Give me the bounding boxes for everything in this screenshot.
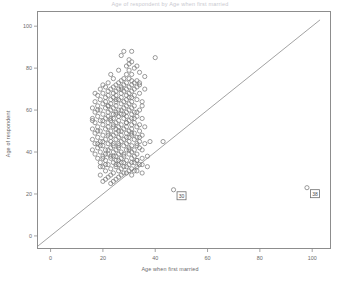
scatter-point <box>122 49 126 53</box>
scatter-point <box>93 100 97 104</box>
scatter-point <box>140 116 144 120</box>
scatter-point <box>130 49 134 53</box>
scatter-point <box>90 127 94 131</box>
scatter-point <box>98 87 102 91</box>
scatter-point <box>96 135 100 139</box>
scatter-point <box>143 125 147 129</box>
scatter-point <box>148 139 152 143</box>
scatter-point <box>101 91 105 95</box>
scatter-point <box>119 53 123 57</box>
y-tick-label: 100 <box>23 23 32 29</box>
scatter-point <box>98 150 102 154</box>
scatter-plot-figure: Age of respondent by Age when first marr… <box>0 0 340 283</box>
scatter-point <box>140 163 144 167</box>
scatter-point <box>103 169 107 173</box>
x-tick-label: 0 <box>49 255 52 261</box>
scatter-point <box>135 97 139 101</box>
scatter-point <box>140 171 144 175</box>
scatter-point <box>109 72 113 76</box>
x-tick-label: 60 <box>205 255 211 261</box>
outlier-label-text: 30 <box>179 193 185 199</box>
y-axis-title: Age of respondent <box>5 84 11 184</box>
scatter-point <box>161 139 165 143</box>
scatter-point <box>143 74 147 78</box>
y-tick-label: 0 <box>29 233 32 239</box>
scatter-point <box>140 104 144 108</box>
scatter-point <box>96 104 100 108</box>
scatter-point <box>124 72 128 76</box>
scatter-point <box>98 173 102 177</box>
scatter-point <box>101 133 105 137</box>
scatter-point <box>145 154 149 158</box>
scatter-point <box>90 106 94 110</box>
scatter-point <box>90 137 94 141</box>
scatter-point <box>90 148 94 152</box>
scatter-point <box>135 169 139 173</box>
outlier-label-text: 38 <box>312 191 318 197</box>
scatter-point <box>98 160 102 164</box>
outlier-point <box>305 186 309 190</box>
scatter-point <box>96 114 100 118</box>
scatter-point <box>137 91 141 95</box>
scatter-point <box>101 123 105 127</box>
y-tick-label: 80 <box>26 65 32 71</box>
scatter-point <box>127 68 131 72</box>
scatter-point <box>153 56 157 60</box>
scatter-point <box>109 167 113 171</box>
scatter-point <box>140 100 144 104</box>
y-axis-ticks: 020406080100 <box>23 23 38 239</box>
y-tick-label: 20 <box>26 191 32 197</box>
scatter-point <box>101 112 105 116</box>
scatter-point <box>117 68 121 72</box>
reference-line <box>38 20 321 247</box>
scatter-point <box>140 156 144 160</box>
x-tick-label: 40 <box>152 255 158 261</box>
x-axis-title: Age when first married <box>0 266 340 272</box>
labeled-outlier-points: 3038 <box>171 186 319 200</box>
plot-canvas: 020406080100 020406080100 3038 <box>0 0 340 283</box>
scatter-point <box>137 129 141 133</box>
identity-reference-line <box>38 20 321 247</box>
scatter-point <box>130 72 134 76</box>
scatter-point <box>143 87 147 91</box>
scatter-point <box>98 165 102 169</box>
scatter-point <box>96 156 100 160</box>
outlier-point <box>171 188 175 192</box>
x-tick-label: 80 <box>257 255 263 261</box>
scatter-point <box>93 152 97 156</box>
scatter-point <box>98 97 102 101</box>
scatter-point <box>143 142 147 146</box>
scatter-point <box>130 173 134 177</box>
x-tick-label: 100 <box>308 255 317 261</box>
scatter-point <box>111 77 115 81</box>
scatter-point <box>145 165 149 169</box>
x-axis-ticks: 020406080100 <box>49 249 317 261</box>
scatter-point <box>96 125 100 129</box>
y-tick-label: 40 <box>26 149 32 155</box>
y-tick-label: 60 <box>26 107 32 113</box>
scatter-point <box>106 81 110 85</box>
scatter-points <box>90 49 165 185</box>
scatter-point <box>137 70 141 74</box>
x-tick-label: 20 <box>100 255 106 261</box>
